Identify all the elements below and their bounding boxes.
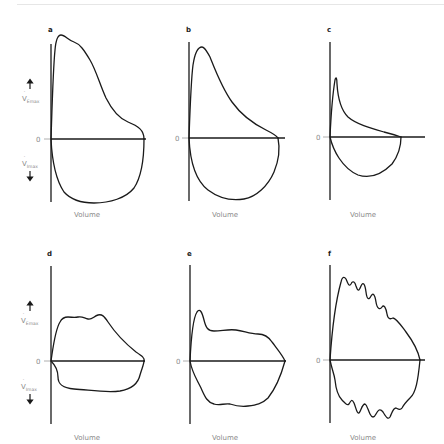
vemax-dot: ˙ [22,312,25,319]
flow-volume-loops-figure: a 0 VEmax ˙ VImax ˙ Volume b 0 Volume c [0,0,444,444]
x-axis-label: Volume [74,211,100,219]
x-axis-label: Volume [350,211,376,219]
expiratory-curve [51,35,144,139]
vimax-dot: ˙ [23,155,26,162]
up-arrow-icon [28,80,33,90]
expiratory-curve [330,277,420,360]
zero-label: 0 [176,358,180,366]
vemax-sub: Emax [27,99,40,104]
up-arrow-icon [28,302,33,312]
panel-letter-b: b [186,26,191,34]
inspiratory-curve [330,360,420,418]
down-arrow-icon [28,394,33,404]
panel-f: f 0 Volume [316,250,425,442]
panel-e: e 0 Volume [176,250,286,442]
vimax-sub: Imax [27,164,38,169]
panel-d: d 0 VEmax ˙ VImax ˙ Volume [21,250,145,442]
vimax-dot: ˙ [22,378,25,385]
zero-label: 0 [175,135,179,143]
vimax-label: VImax ˙ [22,155,38,181]
down-arrow-icon [28,171,33,181]
zero-label: 0 [36,136,40,144]
vimax-sub: Imax [26,387,37,392]
vemax-label: VEmax ˙ [21,302,39,326]
zero-label: 0 [316,134,320,142]
expiratory-curve [190,310,285,361]
expiratory-curve [51,315,144,361]
vemax-label: VEmax ˙ [22,80,40,104]
panel-letter-a: a [48,26,53,34]
expiratory-curve [330,78,401,137]
inspiratory-curve [51,361,144,392]
x-axis-label: Volume [74,434,100,442]
inspiratory-curve [190,361,285,406]
x-axis-label: Volume [212,211,238,219]
vemax-sub: Emax [26,321,39,326]
vemax-dot: ˙ [23,90,26,97]
panel-letter-c: c [327,26,331,34]
inspiratory-curve [189,138,279,200]
x-axis-label: Volume [212,434,238,442]
panel-letter-e: e [187,250,192,258]
x-axis-label: Volume [350,434,376,442]
panel-a: a 0 VEmax ˙ VImax ˙ Volume [22,26,146,219]
zero-label: 0 [36,358,40,366]
inspiratory-curve [51,139,144,203]
panel-c: c 0 Volume [316,26,425,219]
vimax-label: VImax ˙ [21,378,37,404]
panel-b: b 0 Volume [175,26,285,219]
zero-label: 0 [316,357,320,365]
inspiratory-curve [330,137,401,176]
expiratory-curve [189,47,278,138]
panel-letter-f: f [328,250,332,258]
panel-letter-d: d [47,250,52,258]
